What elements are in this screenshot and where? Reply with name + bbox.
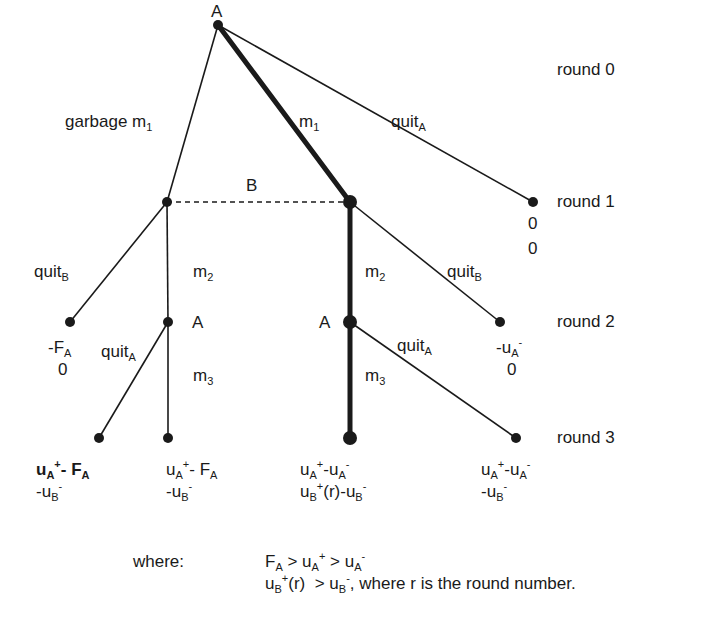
node-r2-4 (495, 317, 505, 327)
edge-label-m2-right: m2 (365, 262, 385, 282)
node-r3-3 (343, 431, 357, 445)
edge-label-quit-b-left: quitB (34, 262, 69, 282)
edge-quit-b-left (70, 202, 167, 322)
edge-label-quit-a-right: quitA (397, 336, 432, 356)
payoff-r1-a: 0 (528, 214, 537, 234)
node-r3-2 (163, 433, 173, 443)
footnote-line1: FA > uA+ > uA- (265, 552, 365, 572)
footnote-label: where: (133, 552, 184, 572)
round-label-0: round 0 (557, 60, 615, 80)
payoff-r3-1-a: uA+- FA (36, 460, 90, 480)
node-r3-1 (94, 433, 104, 443)
node-r1-mid (343, 195, 357, 209)
payoff-r3-4-b: -uB- (481, 482, 507, 502)
edge-quit-a-root (218, 25, 533, 202)
edge-quit-a-left (99, 322, 168, 438)
payoff-r2-right-a: -uA- (496, 338, 522, 358)
round-label-1: round 1 (557, 192, 615, 212)
edge-label-quit-a-root: quitA (391, 112, 426, 132)
payoff-r2-right-b: 0 (507, 360, 516, 380)
node-r1-right (528, 197, 538, 207)
payoff-r3-3-a: uA+-uA- (300, 460, 349, 480)
payoff-r3-1-b: -uB- (36, 482, 62, 502)
payoff-r3-2-b: -uB- (166, 482, 192, 502)
edge-label-m3-right: m3 (365, 366, 385, 386)
payoff-r3-3-b: uB+(r)-uB- (300, 482, 366, 502)
edge-label-m1: m1 (299, 112, 319, 132)
player-label-root: A (211, 2, 222, 22)
payoff-r2-left-b: 0 (58, 360, 67, 380)
node-r2-1 (65, 317, 75, 327)
edge-label-garbage: garbage m1 (65, 112, 152, 132)
node-r2-2 (163, 317, 173, 327)
round-label-3: round 3 (557, 428, 615, 448)
node-r1-left (162, 197, 172, 207)
node-r3-4 (511, 433, 521, 443)
edge-label-m2-left: m2 (193, 262, 213, 282)
player-label-r2-right: A (319, 313, 330, 333)
payoff-r3-2-a: uA+- FA (166, 460, 217, 480)
edge-label-m3-left: m3 (193, 366, 213, 386)
edge-label-quit-b-right: quitB (447, 262, 482, 282)
edge-label-quit-a-left: quitA (101, 342, 136, 362)
payoff-r2-left-a: -FA (48, 338, 71, 358)
info-set-label: B (246, 176, 257, 196)
edge-m1-path (218, 25, 350, 202)
node-r2-3 (343, 315, 357, 329)
edge-m2-left (167, 202, 168, 322)
payoff-r1-b: 0 (528, 239, 537, 259)
player-label-r2-left: A (192, 313, 203, 333)
edge-garbage-m1 (167, 25, 218, 202)
payoff-r3-4-a: uA+-uA- (481, 460, 530, 480)
round-label-2: round 2 (557, 312, 615, 332)
footnote-line2: uB+(r) > uB-, where r is the round numbe… (265, 574, 576, 594)
